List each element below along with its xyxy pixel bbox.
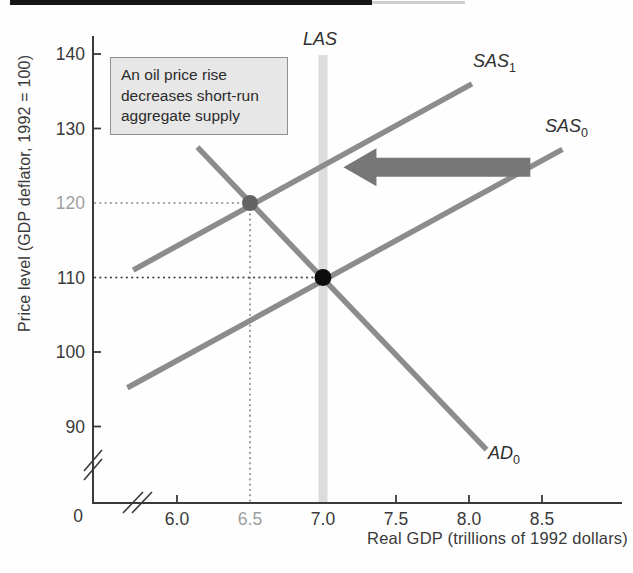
curve-label-las: LAS xyxy=(303,29,337,50)
origin-label: 0 xyxy=(70,506,86,527)
curve-label-ad0: AD0 xyxy=(488,443,520,467)
sas1-label-text: SAS xyxy=(473,51,509,71)
y-tick-label-130: 130 xyxy=(56,119,85,139)
y-tick-label-100: 100 xyxy=(56,342,85,362)
curve-label-sas1: SAS1 xyxy=(473,51,516,75)
curve-AD0 xyxy=(197,147,486,449)
sas1-label-sub: 1 xyxy=(509,61,516,75)
x-tick-label-8: 8.0 xyxy=(457,509,482,529)
las-label-text: LAS xyxy=(303,29,337,49)
x-tick-label-6: 6.0 xyxy=(165,509,190,529)
new-equilibrium-point xyxy=(242,195,258,211)
y-tick-label-120: 120 xyxy=(56,193,85,213)
curve-SAS0 xyxy=(127,149,562,387)
annotation-line-1: An oil price rise xyxy=(121,65,277,86)
y-tick-label-140: 140 xyxy=(56,44,85,64)
annotation-box: An oil price rise decreases short-run ag… xyxy=(110,57,288,135)
ad0-label-text: AD xyxy=(488,443,513,463)
x-tick-label-7: 7.0 xyxy=(311,509,336,529)
y-tick-label-110: 110 xyxy=(57,268,85,288)
y-tick-label-90: 90 xyxy=(66,417,86,437)
annotation-line-3: aggregate supply xyxy=(121,106,277,127)
x-tick-label-6.5: 6.5 xyxy=(238,509,262,529)
sas0-label-sub: 0 xyxy=(581,126,588,140)
initial-equilibrium-point xyxy=(315,269,332,286)
chart-canvas: 140130120110100906.06.57.07.58.08.5 xyxy=(0,0,633,573)
annotation-line-2: decreases short-run xyxy=(121,86,277,107)
y-axis-title: Price level (GDP deflator, 1992 = 100) xyxy=(16,55,34,332)
x-axis-title: Real GDP (trillions of 1992 dollars) xyxy=(330,529,628,548)
curve-label-sas0: SAS0 xyxy=(545,116,588,140)
x-tick-label-8.5: 8.5 xyxy=(530,509,554,529)
figure-oil-price-shock-chart: 140130120110100906.06.57.07.58.08.5 Pric… xyxy=(0,0,633,573)
x-tick-label-7.5: 7.5 xyxy=(384,509,408,529)
ad0-label-sub: 0 xyxy=(513,453,520,467)
sas0-label-text: SAS xyxy=(545,116,581,136)
